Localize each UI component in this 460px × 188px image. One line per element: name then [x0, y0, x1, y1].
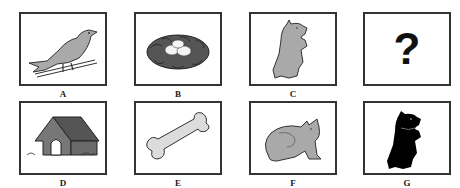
- panel-e-label: E: [134, 178, 222, 188]
- panel-b-label: B: [134, 89, 222, 99]
- panel-c-label: C: [249, 89, 337, 99]
- panel-question: ?: [363, 12, 451, 86]
- panel-f-label: F: [249, 178, 337, 188]
- panel-g-label: G: [363, 178, 451, 188]
- panel-a: A: [19, 12, 107, 99]
- black-dog-icon: [365, 103, 449, 173]
- panel-d-box: [19, 101, 107, 175]
- cat-icon: [251, 103, 335, 173]
- panel-b-box: [134, 12, 222, 86]
- panel-g-box: [363, 101, 451, 175]
- panel-f-box: [249, 101, 337, 175]
- panel-a-label: A: [19, 89, 107, 99]
- nest-icon: [136, 14, 220, 84]
- panel-b: B: [134, 12, 222, 99]
- question-mark-icon: ?: [365, 14, 449, 84]
- dog-icon: [251, 14, 335, 84]
- panel-c-box: [249, 12, 337, 86]
- panel-d: D: [19, 101, 107, 188]
- panel-c: C: [249, 12, 337, 99]
- panel-a-box: [19, 12, 107, 86]
- panel-question-box: ?: [363, 12, 451, 86]
- panel-d-label: D: [19, 178, 107, 188]
- panel-e-box: [134, 101, 222, 175]
- panel-g: G: [363, 101, 451, 188]
- doghouse-icon: [21, 103, 105, 173]
- bird-icon: [21, 14, 105, 84]
- panel-f: F: [249, 101, 337, 188]
- panel-e: E: [134, 101, 222, 188]
- bone-icon: [136, 103, 220, 173]
